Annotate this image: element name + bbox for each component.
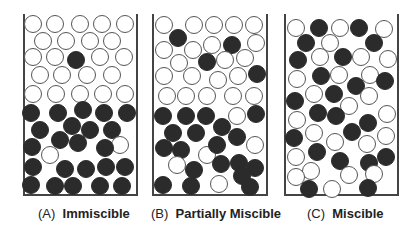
dark-molecule-icon — [31, 121, 49, 139]
light-molecule-icon — [103, 32, 121, 50]
dark-molecule-icon — [56, 160, 74, 178]
light-molecule-icon — [53, 66, 71, 84]
dark-molecule-icon — [154, 107, 172, 125]
dark-molecule-icon — [297, 34, 315, 52]
label-c-title: Miscible — [332, 206, 383, 221]
light-molecule-icon — [209, 71, 227, 89]
dark-molecule-icon — [177, 107, 195, 125]
dark-molecule-icon — [286, 92, 304, 110]
dark-molecule-icon — [248, 65, 266, 83]
label-b-title: Partially Miscible — [176, 206, 282, 221]
light-molecule-icon — [31, 66, 49, 84]
dark-molecule-icon — [24, 158, 42, 176]
light-molecule-icon — [203, 36, 221, 54]
dark-molecule-icon — [312, 67, 330, 85]
dark-molecule-icon — [154, 176, 172, 194]
light-molecule-icon — [41, 146, 59, 164]
dark-molecule-icon — [308, 143, 326, 161]
dark-molecule-icon — [74, 101, 92, 119]
dark-molecule-icon — [327, 107, 345, 125]
light-molecule-icon — [246, 136, 264, 154]
dark-molecule-icon — [309, 104, 327, 122]
light-molecule-icon — [330, 66, 348, 84]
light-molecule-icon — [57, 32, 75, 50]
light-molecule-icon — [91, 48, 109, 66]
dark-molecule-icon — [64, 177, 82, 195]
light-molecule-icon — [245, 87, 263, 105]
light-molecule-icon — [46, 48, 64, 66]
dark-molecule-icon — [300, 180, 318, 198]
dark-molecule-icon — [182, 177, 200, 195]
light-molecule-icon — [155, 41, 173, 59]
light-molecule-icon — [94, 85, 112, 103]
light-molecule-icon — [305, 85, 323, 103]
light-molecule-icon — [323, 180, 341, 198]
light-molecule-icon — [247, 34, 265, 52]
dark-molecule-icon — [376, 72, 394, 90]
dark-molecule-icon — [343, 123, 361, 141]
dark-molecule-icon — [97, 158, 115, 176]
dark-molecule-icon — [365, 34, 383, 52]
light-molecule-icon — [93, 15, 111, 33]
light-molecule-icon — [46, 15, 64, 33]
dark-molecule-icon — [334, 48, 352, 66]
light-molecule-icon — [177, 87, 195, 105]
light-molecule-icon — [71, 15, 89, 33]
light-molecule-icon — [34, 32, 52, 50]
dark-molecule-icon — [22, 104, 40, 122]
dark-molecule-icon — [233, 167, 251, 185]
dark-molecule-icon — [155, 139, 173, 157]
dark-molecule-icon — [69, 134, 87, 152]
label-a: (A) Immiscible — [38, 206, 130, 221]
light-molecule-icon — [352, 48, 370, 66]
light-molecule-icon — [311, 48, 329, 66]
dark-molecule-icon — [228, 128, 246, 146]
light-molecule-icon — [245, 16, 263, 34]
light-molecule-icon — [236, 49, 254, 67]
light-molecule-icon — [115, 48, 133, 66]
dark-molecule-icon — [185, 161, 203, 179]
light-molecule-icon — [158, 87, 176, 105]
light-molecule-icon — [183, 67, 201, 85]
dark-molecule-icon — [212, 155, 230, 173]
light-molecule-icon — [378, 105, 396, 123]
dark-molecule-icon — [285, 129, 303, 147]
light-molecule-icon — [305, 124, 323, 142]
dark-molecule-icon — [91, 177, 109, 195]
light-molecule-icon — [205, 16, 223, 34]
light-molecule-icon — [358, 135, 376, 153]
light-molecule-icon — [185, 16, 203, 34]
light-molecule-icon — [210, 175, 228, 193]
dark-molecule-icon — [77, 160, 95, 178]
light-molecule-icon — [216, 51, 234, 69]
dark-molecule-icon — [350, 19, 368, 37]
dark-molecule-icon — [118, 104, 136, 122]
dark-molecule-icon — [46, 177, 64, 195]
dark-molecule-icon — [187, 124, 205, 142]
light-molecule-icon — [24, 85, 42, 103]
dark-molecule-icon — [377, 148, 395, 166]
dark-molecule-icon — [113, 177, 131, 195]
dark-molecule-icon — [197, 107, 215, 125]
label-b: (B) Partially Miscible — [151, 206, 281, 221]
label-c: (C) Miscible — [307, 206, 384, 221]
dark-molecule-icon — [22, 176, 40, 194]
light-molecule-icon — [103, 66, 121, 84]
light-molecule-icon — [47, 85, 65, 103]
light-molecule-icon — [340, 166, 358, 184]
light-molecule-icon — [379, 50, 397, 68]
light-molecule-icon — [24, 15, 42, 33]
light-molecule-icon — [224, 87, 242, 105]
dark-molecule-icon — [96, 139, 114, 157]
light-molecule-icon — [228, 107, 246, 125]
dark-molecule-icon — [247, 105, 265, 123]
light-molecule-icon — [78, 66, 96, 84]
light-molecule-icon — [81, 32, 99, 50]
light-molecule-icon — [116, 85, 134, 103]
dark-molecule-icon — [116, 158, 134, 176]
dark-molecule-icon — [208, 136, 226, 154]
light-molecule-icon — [360, 87, 378, 105]
label-a-letter: (A) — [38, 206, 55, 221]
dark-molecule-icon — [23, 138, 41, 156]
light-molecule-icon — [288, 70, 306, 88]
